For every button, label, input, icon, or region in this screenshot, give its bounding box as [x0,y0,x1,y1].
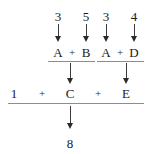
sum-rule [8,103,144,104]
arrow-down-icon [82,24,90,42]
arrow-down-icon [130,24,138,42]
input-digit: 3 [103,10,110,23]
arrow-down-icon [66,63,74,84]
plus-operator: + [117,46,123,59]
input-digit: 5 [83,10,90,23]
operand-letter-d: D [129,46,138,59]
result-digit: 8 [67,137,74,150]
plus-operator: + [69,46,75,59]
arrow-down-icon [66,106,74,129]
operand-letter-a: A [53,46,62,59]
sum-term-c: C [66,87,75,100]
group-rule-left [48,61,95,62]
input-digit: 4 [131,10,138,23]
arrow-down-icon [54,24,62,42]
arrow-down-icon [102,24,110,42]
sum-term-e: E [122,87,130,100]
plus-operator: + [95,87,101,100]
arrow-down-icon [122,63,130,84]
group-rule-right [97,61,144,62]
plus-operator: + [39,87,45,100]
arithmetic-flow-diagram: 3 5 3 4 A + B A + D 1 + C + E 8 [0,0,153,154]
sum-term-one: 1 [11,87,18,100]
input-digit: 3 [55,10,62,23]
operand-letter-b: B [82,46,91,59]
operand-letter-a: A [101,46,110,59]
